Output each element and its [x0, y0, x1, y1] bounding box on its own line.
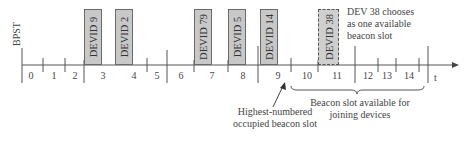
beacon-slot-devid-9: DEVID 9 [84, 9, 102, 65]
beacon-slot-devid-79: DEVID 79 [194, 9, 212, 65]
time-axis-label: t [434, 72, 437, 84]
bpst-label: BPST [11, 19, 23, 49]
slot-number-10: 10 [302, 70, 312, 81]
slot-number-3: 3 [101, 70, 106, 81]
slot-number-9: 9 [276, 70, 281, 81]
beacon-slot-devid-14: DEVID 14 [260, 9, 278, 65]
slot-number-5: 5 [155, 70, 160, 81]
slot-number-0: 0 [29, 70, 34, 81]
beacon-slot-devid-2: DEVID 2 [115, 9, 133, 65]
slot-number-14: 14 [404, 70, 414, 81]
slot-number-4: 4 [132, 70, 137, 81]
pointer-arrow-icon [280, 82, 286, 90]
available-brace [291, 86, 424, 94]
beacon-slot-devid-38: DEVID 38 [318, 9, 339, 65]
axis-arrow-icon [452, 62, 459, 68]
available-slots-annotation: Beacon slot available for joining device… [300, 97, 420, 121]
slot-number-8: 8 [241, 70, 246, 81]
slot-number-1: 1 [52, 70, 57, 81]
slot-number-11: 11 [332, 70, 342, 81]
slot-number-13: 13 [382, 70, 392, 81]
slot-number-2: 2 [73, 70, 78, 81]
pointer-line [273, 86, 283, 107]
slot-number-6: 6 [179, 70, 184, 81]
dev38-annotation: DEV 38 chooses as one available beacon s… [347, 6, 414, 42]
slot-number-7: 7 [210, 70, 215, 81]
slot-number-12: 12 [363, 70, 373, 81]
beacon-slot-devid-5: DEVID 5 [228, 9, 246, 65]
